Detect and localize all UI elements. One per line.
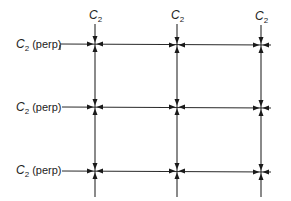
row-line-3	[62, 171, 271, 172]
column-labels: C2 C2 C2	[89, 8, 269, 25]
row-labels: C2 (perp) C2 (perp) C2 (perp)	[16, 37, 62, 179]
row-line-2	[62, 107, 271, 108]
column-label-2: C2	[171, 8, 185, 24]
row-label-1: C2 (perp)	[16, 37, 62, 53]
column-label-1: C2	[89, 8, 103, 24]
lattice-diagram: C2 C2 C2 C2 (perp) C2 (perp) C2 (perp)	[0, 0, 291, 201]
column-label-3: C2	[255, 9, 269, 25]
row-label-2: C2 (perp)	[16, 100, 62, 116]
row-label-3: C2 (perp)	[16, 163, 62, 179]
horizontal-axes	[60, 44, 271, 172]
